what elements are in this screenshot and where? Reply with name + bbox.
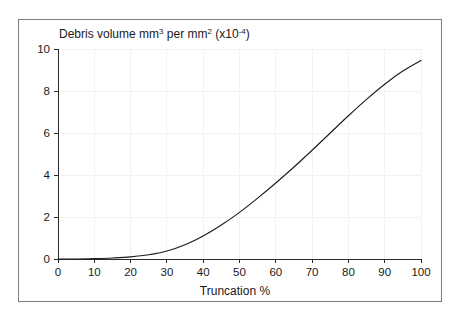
x-axis-tick-label: 40 bbox=[197, 266, 210, 278]
caption-remnant bbox=[14, 0, 104, 7]
y-axis-tick-label: 2 bbox=[44, 211, 50, 223]
x-axis-tick-labels: 0102030405060708090100 bbox=[55, 266, 431, 278]
y-axis-tick-label: 0 bbox=[44, 253, 50, 265]
x-axis-title: Truncation % bbox=[200, 284, 271, 298]
x-axis-tick-label: 20 bbox=[124, 266, 137, 278]
chart-plot-area: 0246810 0102030405060708090100 Debris vo… bbox=[19, 20, 443, 303]
axis-ticks bbox=[54, 49, 421, 263]
x-axis-tick-label: 90 bbox=[378, 266, 391, 278]
x-axis-tick-label: 70 bbox=[306, 266, 319, 278]
x-axis-tick-label: 80 bbox=[342, 266, 355, 278]
x-axis-tick-label: 0 bbox=[55, 266, 61, 278]
x-axis-tick-label: 60 bbox=[269, 266, 282, 278]
x-axis-tick-label: 50 bbox=[233, 266, 246, 278]
y-axis-tick-label: 6 bbox=[44, 127, 50, 139]
chart-svg: 0246810 0102030405060708090100 Debris vo… bbox=[19, 20, 443, 303]
y-axis-tick-labels: 0246810 bbox=[37, 43, 50, 265]
y-axis-title: Debris volume mm3 per mm2 (x10-4) bbox=[59, 27, 250, 42]
x-axis-tick-label: 30 bbox=[161, 266, 174, 278]
x-axis-tick-label: 10 bbox=[88, 266, 101, 278]
x-axis-tick-label: 100 bbox=[411, 266, 430, 278]
y-axis-tick-label: 8 bbox=[44, 85, 50, 97]
y-axis-tick-label: 4 bbox=[44, 169, 51, 181]
y-axis-tick-label: 10 bbox=[37, 43, 50, 55]
gridlines bbox=[58, 49, 421, 259]
figure-frame: 0246810 0102030405060708090100 Debris vo… bbox=[18, 19, 442, 302]
